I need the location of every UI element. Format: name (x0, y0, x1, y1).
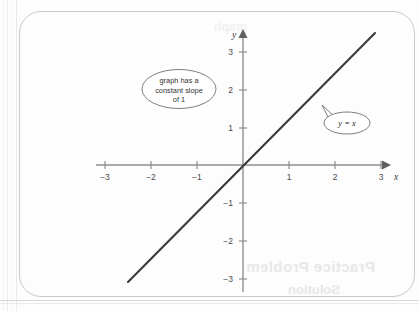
x-tick-label: −1 (192, 172, 202, 182)
x-tick-label: 1 (287, 172, 292, 182)
function-label-callout: y = x (322, 105, 370, 134)
y-tick-label: 2 (228, 85, 233, 95)
slope-callout: graph has a constant slope of 1 (142, 70, 216, 109)
slope-callout-line1: graph has a (159, 76, 199, 85)
x-axis: −3 −2 −1 1 2 3 x (96, 161, 399, 183)
y-axis: 3 2 1 −1 −2 −3 y (223, 29, 247, 292)
x-tick-label: 3 (379, 172, 384, 182)
scanned-page: graph Practice Problem Solution −3 −2 −1… (0, 0, 419, 311)
slope-callout-line2: constant slope (155, 86, 203, 95)
x-tick-label: 2 (333, 172, 338, 182)
line-y-equals-x (128, 33, 375, 282)
y-tick-label: −2 (223, 236, 233, 246)
x-axis-label: x (393, 172, 399, 182)
y-axis-arrowhead (239, 29, 248, 38)
y-axis-label: y (231, 30, 237, 40)
series-y-equals-x (128, 33, 375, 282)
y-tick-label: 3 (228, 47, 233, 57)
x-tick-label: −3 (100, 172, 110, 182)
y-tick-label: −1 (223, 198, 233, 208)
y-tick-label: 1 (228, 123, 233, 133)
y-tick-label: −3 (223, 274, 233, 284)
scan-artifact-line (0, 303, 419, 304)
x-tick-label: −2 (146, 172, 156, 182)
scan-artifact-line (0, 300, 419, 301)
slope-callout-line3: of 1 (173, 95, 185, 104)
x-axis-arrowhead (382, 161, 391, 170)
function-label-text: y = x (337, 119, 356, 128)
cartesian-plot: −3 −2 −1 1 2 3 x 3 2 1 −1 −2 −3 y (0, 0, 419, 311)
